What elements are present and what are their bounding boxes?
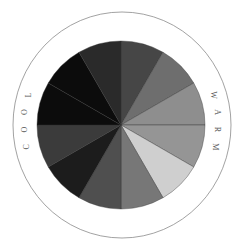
label-letter: W [209, 91, 218, 99]
label-letter: R [213, 127, 222, 133]
label-letter: L [24, 92, 33, 97]
label-letter: C [22, 144, 31, 149]
cool-label: COOL [20, 92, 34, 149]
label-letter: O [20, 109, 29, 115]
warm-label: WARM [209, 91, 223, 150]
wheel-segments [37, 41, 205, 209]
label-letter: O [20, 126, 29, 132]
color-wheel-diagram: COOL WARM [0, 0, 242, 249]
label-letter: M [211, 143, 220, 150]
label-letter: A [213, 109, 222, 115]
